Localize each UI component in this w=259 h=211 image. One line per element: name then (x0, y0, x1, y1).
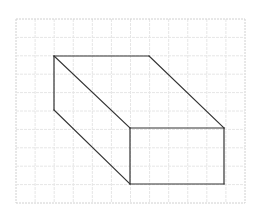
rectangular-prism (54, 56, 224, 184)
diagram-canvas (0, 0, 259, 211)
prism-edge-back-top-right-to-front-top-right (149, 56, 224, 128)
